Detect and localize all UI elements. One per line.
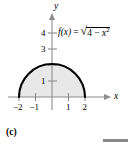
x-tick-label--2: −2 [13, 103, 23, 112]
y-axis-arrowhead [49, 13, 55, 20]
y-tick-label-4: 4 [41, 29, 46, 38]
x-tick-label-2: 2 [83, 103, 88, 112]
panel-label: (c) [6, 128, 17, 138]
formula-radical: √ 4 − x2 [81, 27, 111, 38]
formula-function-name: f(x) [58, 27, 71, 37]
plot-area [0, 0, 131, 148]
function-formula: f(x) = √ 4 − x2 [58, 27, 110, 38]
x-axis-arrowhead [104, 94, 111, 100]
radicand-lead: 4 − [87, 28, 102, 38]
y-tick-label-1: 1 [41, 77, 46, 86]
radicand-exponent: 2 [106, 26, 109, 33]
formula-radicand: 4 − x2 [86, 27, 110, 38]
x-tick-label-1: 1 [66, 103, 71, 112]
y-tick-label-3: 3 [41, 45, 46, 54]
corner-rule [103, 139, 128, 142]
x-tick-label--1: −1 [30, 103, 40, 112]
figure-container: −2 −1 1 2 1 3 4 y x f(x) = √ 4 − x2 (c) [0, 0, 131, 148]
y-axis-label: y [54, 2, 58, 12]
x-axis-label: x [114, 92, 118, 102]
formula-equals-sign: = [73, 27, 78, 37]
